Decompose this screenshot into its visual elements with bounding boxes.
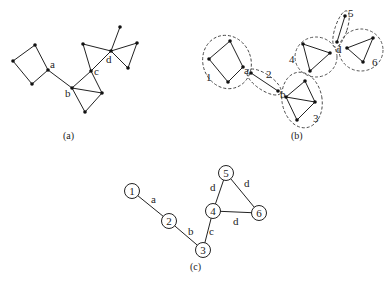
vertex-label-d: d — [106, 53, 112, 65]
tree-node-1: 1 — [125, 184, 140, 199]
vertex-label-a: a — [244, 64, 249, 76]
tree-node-4: 4 — [206, 204, 221, 219]
svg-text:4: 4 — [210, 205, 216, 217]
block-label-5: 5 — [348, 7, 354, 19]
svg-text:2: 2 — [166, 215, 172, 227]
caption-c: (c) — [190, 261, 201, 273]
block-cutvertex-diagram: a b c d (a) — [0, 0, 392, 288]
block-ellipse-4 — [295, 37, 337, 77]
svg-text:3: 3 — [200, 244, 206, 256]
caption-b: (b) — [291, 130, 303, 142]
edge-label-d-46: d — [233, 215, 239, 227]
edge-label-b: b — [188, 225, 194, 237]
diagram-svg: a b c d (a) — [0, 0, 392, 288]
block-label-3: 3 — [313, 112, 319, 124]
svg-text:1: 1 — [129, 185, 135, 197]
tree-node-3: 3 — [196, 243, 211, 258]
tree-node-5: 5 — [219, 166, 234, 181]
tree-node-6: 6 — [252, 206, 267, 221]
svg-text:6: 6 — [256, 207, 262, 219]
vertex-label-a: a — [50, 58, 55, 70]
edge-label-c: c — [209, 225, 214, 237]
block-label-6: 6 — [372, 56, 378, 68]
svg-text:5: 5 — [223, 167, 229, 179]
vertex-label-c: c — [94, 65, 99, 77]
edge-label-d-45: d — [210, 181, 216, 193]
edge-label-a: a — [151, 193, 156, 205]
edge-label-d-56: d — [244, 177, 250, 189]
caption-a: (a) — [63, 130, 74, 142]
vertex-label-b: b — [280, 88, 286, 100]
tree-node-2: 2 — [162, 214, 177, 229]
vertex-label-d: d — [336, 43, 342, 55]
figure-a: a b c d (a) — [11, 25, 139, 142]
block-label-1: 1 — [206, 71, 212, 83]
figure-c: 1 2 3 4 5 6 a b c d d d (c) — [125, 166, 267, 274]
block-label-4: 4 — [289, 53, 295, 65]
block-ellipse-1 — [195, 28, 259, 95]
figure-b: a b d 1 2 3 4 5 6 (b) — [195, 7, 383, 142]
block-label-2: 2 — [266, 68, 272, 80]
vertex-label-b: b — [65, 87, 71, 99]
vertices-a — [11, 25, 139, 114]
